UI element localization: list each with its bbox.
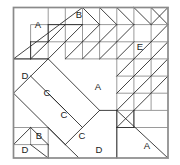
square-dissection-figure: A B E D C A C C B D D A [0,0,180,165]
piece-label-d-bottom-left: D [22,144,29,155]
piece-label-d-mid-left: D [22,70,29,81]
piece-label-c-lower: C [79,130,86,141]
piece-label-c-middle: C [61,109,68,120]
dissection-drawing: A B E D C A C C B D D A [0,0,180,165]
piece-label-b-bottom-left: B [36,130,42,141]
piece-label-a-center: A [95,81,102,92]
piece-label-c-upper: C [44,87,51,98]
piece-label-b-top: B [76,9,82,20]
piece-label-a-top-left: A [35,19,42,30]
piece-label-e-top-right: E [137,41,143,52]
piece-label-a-bottom-right: A [144,140,151,151]
piece-label-d-bottom-mid: D [96,144,103,155]
